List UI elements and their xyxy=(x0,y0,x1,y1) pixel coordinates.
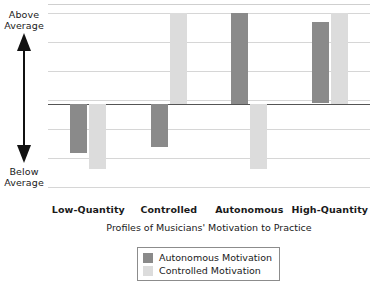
above-average-line1: Above xyxy=(0,9,48,20)
above-average-line2: Average xyxy=(0,20,48,31)
legend-label: Controlled Motivation xyxy=(159,265,261,276)
bar-controlled-controlled xyxy=(170,13,187,104)
x-axis-label-high-quantity: High-Quantity xyxy=(292,204,369,215)
legend-item: Autonomous Motivation xyxy=(143,251,272,264)
legend-label: Autonomous Motivation xyxy=(159,252,272,263)
below-average-line1: Below xyxy=(0,166,48,177)
bar-high-quantity-autonomous xyxy=(312,22,329,103)
bar-low-quantity-autonomous xyxy=(70,104,87,154)
x-axis-title: Profiles of Musicians' Motivation to Pra… xyxy=(48,222,370,233)
bar-low-quantity-controlled xyxy=(89,104,106,169)
bar-autonomous-autonomous xyxy=(231,13,248,104)
bar-controlled-autonomous xyxy=(151,104,168,147)
double-headed-vertical-arrow-icon xyxy=(0,32,48,164)
x-axis-label-controlled: Controlled xyxy=(140,204,197,215)
above-average-label: Above Average xyxy=(0,9,48,31)
legend-swatch-icon xyxy=(143,266,153,276)
legend-item: Controlled Motivation xyxy=(143,264,272,277)
bar-high-quantity-controlled xyxy=(331,13,348,104)
below-average-line2: Average xyxy=(0,177,48,188)
plot-area xyxy=(48,4,370,203)
x-axis-category-labels: Low-QuantityControlledAutonomousHigh-Qua… xyxy=(48,204,370,220)
vertical-axis-annotation: Above Average Below Average xyxy=(0,0,48,205)
x-axis-label-low-quantity: Low-Quantity xyxy=(52,204,125,215)
x-axis-label-autonomous: Autonomous xyxy=(215,204,283,215)
below-average-label: Below Average xyxy=(0,166,48,188)
chart-figure: Above Average Below Average Low-Quantity… xyxy=(0,0,380,290)
bar-autonomous-controlled xyxy=(250,104,267,169)
bars-layer xyxy=(48,4,370,203)
legend: Autonomous MotivationControlled Motivati… xyxy=(137,247,280,281)
legend-swatch-icon xyxy=(143,253,153,263)
